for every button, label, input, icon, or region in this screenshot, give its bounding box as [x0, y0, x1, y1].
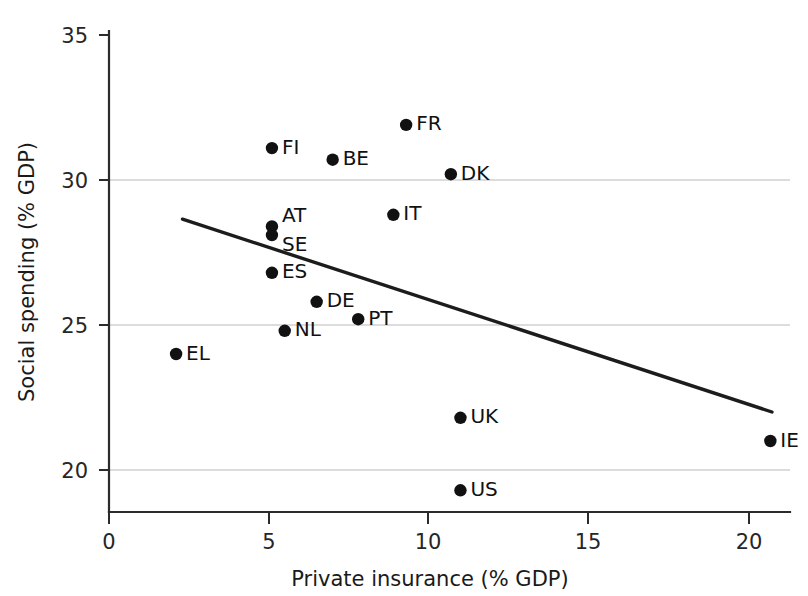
- y-tick-labels-group: 35 30 25 20: [61, 24, 88, 483]
- x-tick-label-0: 0: [102, 530, 115, 554]
- point-marker-se: [266, 229, 278, 241]
- scatter-chart-figure: 35 30 25 20 0 5 10 15 20 Private insuran…: [0, 0, 808, 596]
- point-marker-de: [310, 296, 322, 308]
- data-point: DK: [445, 161, 491, 185]
- data-point: IE: [764, 428, 799, 452]
- point-label-us: US: [470, 477, 497, 501]
- y-axis-title: Social spending (% GDP): [15, 142, 39, 402]
- data-point: BE: [326, 146, 369, 170]
- point-marker-be: [326, 154, 338, 166]
- data-point: DE: [310, 288, 354, 312]
- trend-line: [182, 219, 771, 412]
- point-label-ie: IE: [780, 428, 799, 452]
- data-point: IT: [387, 201, 422, 225]
- data-point: FI: [266, 135, 300, 159]
- point-label-se: SE: [282, 232, 307, 256]
- x-tick-label-20: 20: [736, 530, 763, 554]
- point-label-it: IT: [403, 201, 422, 225]
- data-point: EL: [170, 341, 211, 365]
- point-marker-dk: [445, 168, 457, 180]
- x-tick-label-10: 10: [415, 530, 442, 554]
- y-tick-label-20: 20: [61, 459, 88, 483]
- point-marker-fr: [400, 119, 412, 131]
- y-tick-label-35: 35: [61, 24, 88, 48]
- point-label-pt: PT: [368, 306, 393, 330]
- point-label-fi: FI: [282, 135, 299, 159]
- point-marker-uk: [454, 412, 466, 424]
- data-points-layer: FRFIBEDKITATSEESDEPTNLELUKIEUS: [170, 111, 799, 500]
- point-label-el: EL: [186, 341, 211, 365]
- point-label-at: AT: [282, 203, 307, 227]
- y-tick-label-30: 30: [61, 169, 88, 193]
- y-tick-label-25: 25: [61, 314, 88, 338]
- point-marker-ie: [764, 435, 776, 447]
- data-point: ES: [266, 259, 308, 283]
- point-marker-it: [387, 209, 399, 221]
- point-marker-pt: [352, 313, 364, 325]
- x-axis-title: Private insurance (% GDP): [291, 567, 568, 591]
- point-label-nl: NL: [295, 317, 322, 341]
- data-point: PT: [352, 306, 393, 330]
- point-marker-fi: [266, 142, 278, 154]
- point-label-be: BE: [343, 146, 369, 170]
- data-point: SE: [266, 229, 308, 256]
- point-label-fr: FR: [416, 111, 442, 135]
- x-tick-labels-group: 0 5 10 15 20: [102, 530, 762, 554]
- point-marker-us: [454, 484, 466, 496]
- axes-group: [99, 31, 790, 524]
- data-point: AT: [266, 203, 307, 233]
- point-label-uk: UK: [470, 404, 499, 428]
- point-marker-el: [170, 348, 182, 360]
- x-tick-label-15: 15: [575, 530, 602, 554]
- data-point: US: [454, 477, 498, 501]
- point-marker-es: [266, 267, 278, 279]
- data-point: FR: [400, 111, 442, 135]
- plot-canvas: 35 30 25 20 0 5 10 15 20 Private insuran…: [0, 0, 808, 596]
- gridlines-group: [109, 180, 790, 470]
- point-marker-nl: [279, 325, 291, 337]
- x-tick-label-5: 5: [262, 530, 275, 554]
- data-point: UK: [454, 404, 499, 428]
- data-point: NL: [279, 317, 322, 341]
- point-label-dk: DK: [461, 161, 490, 185]
- point-label-es: ES: [282, 259, 307, 283]
- point-label-de: DE: [327, 288, 355, 312]
